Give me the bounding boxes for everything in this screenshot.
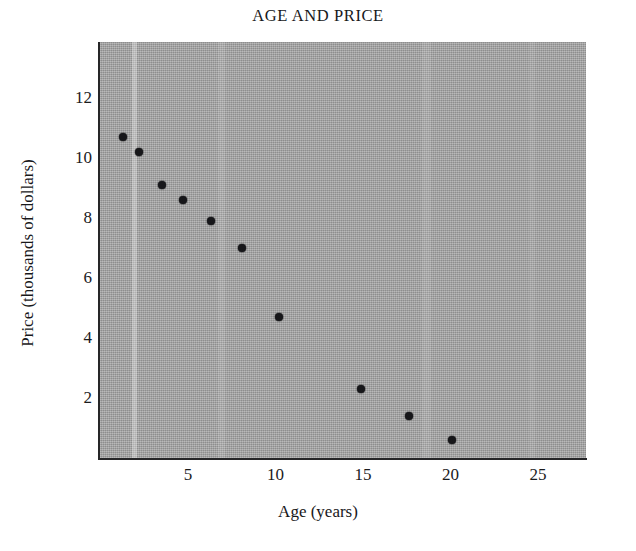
y-axis-line: [98, 42, 100, 460]
data-point: [405, 412, 413, 420]
data-point: [135, 148, 143, 156]
data-point: [179, 196, 187, 204]
data-point: [207, 217, 215, 225]
scan-artifact-band: [132, 42, 137, 458]
x-tick-label: 25: [515, 466, 561, 484]
scan-artifact-band: [529, 42, 535, 458]
y-axis-tick-labels: 24681012: [42, 0, 92, 551]
data-point: [158, 181, 166, 189]
x-tick-label: 15: [340, 466, 386, 484]
data-point: [357, 385, 365, 393]
x-tick-label: 20: [428, 466, 474, 484]
y-tick-label: 2: [48, 389, 92, 407]
y-tick-label: 8: [48, 209, 92, 227]
plot-area: [100, 42, 586, 458]
chart-title: AGE AND PRICE: [0, 6, 636, 26]
y-axis-label: Price (thousands of dollars): [18, 88, 38, 418]
data-point: [448, 436, 456, 444]
data-point: [275, 313, 283, 321]
y-tick-label: 4: [48, 329, 92, 347]
x-axis-label: Age (years): [0, 502, 636, 522]
scan-artifact-band: [422, 42, 431, 458]
x-axis-line: [98, 458, 587, 460]
x-tick-label: 10: [253, 466, 299, 484]
scatter-chart-figure: AGE AND PRICE 24681012 510152025 Age (ye…: [0, 0, 636, 551]
data-point: [238, 244, 246, 252]
scan-artifact-band: [218, 42, 225, 458]
y-tick-label: 12: [48, 89, 92, 107]
data-point: [119, 133, 127, 141]
y-tick-label: 6: [48, 269, 92, 287]
y-tick-label: 10: [48, 149, 92, 167]
x-tick-label: 5: [165, 466, 211, 484]
